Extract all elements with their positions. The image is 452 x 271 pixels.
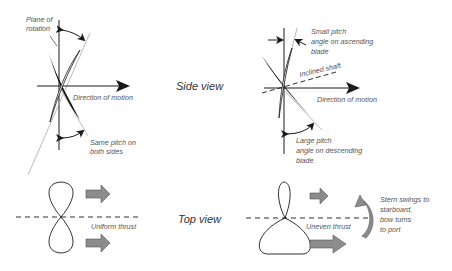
pitch-line-lower bbox=[282, 88, 322, 130]
pitch-angle-arc-bottom bbox=[62, 131, 83, 138]
small-pitch-label-3: blade bbox=[311, 47, 329, 56]
large-pitch-label-2: angle on descending bbox=[296, 146, 362, 155]
same-pitch-label-2: both sides bbox=[90, 147, 123, 156]
turn-label-2: starboard, bbox=[380, 205, 412, 214]
plane-label-leader bbox=[50, 36, 57, 46]
turn-label-3: bow turns bbox=[380, 215, 412, 224]
top-view-label: Top view bbox=[178, 213, 222, 225]
propeller-walk-diagram: Plane of rotation Direction of motion Sa… bbox=[0, 0, 452, 271]
uniform-thrust-label: Uniform thrust bbox=[91, 222, 137, 231]
turning-arrow bbox=[355, 195, 373, 238]
large-pitch-label-1: Large pitch bbox=[296, 136, 332, 145]
large-pitch-angle-arc bbox=[287, 124, 313, 134]
left-side-view: Plane of rotation Direction of motion Sa… bbox=[26, 15, 136, 175]
propeller-loop-lower-large bbox=[259, 218, 310, 254]
thrust-arrow-small bbox=[310, 188, 328, 204]
direction-of-motion-label: Direction of motion bbox=[317, 95, 377, 104]
right-top-view: Uneven thrust Stern swings to starboard,… bbox=[246, 182, 429, 254]
plane-of-rotation-label-2: rotation bbox=[26, 24, 50, 33]
pitch-angle-arc-top bbox=[62, 30, 84, 40]
propeller-loop-lower bbox=[49, 217, 73, 253]
small-pitch-label-1: Small pitch bbox=[311, 27, 346, 36]
thrust-arrow-lower bbox=[86, 234, 110, 252]
same-pitch-label-1: Same pitch on bbox=[90, 138, 136, 147]
left-top-view: Uniform thrust bbox=[16, 182, 140, 253]
direction-of-motion-label: Direction of motion bbox=[73, 93, 133, 102]
small-pitch-arrow-right bbox=[296, 40, 306, 45]
propeller-loop-upper bbox=[49, 182, 73, 217]
propeller-loop-upper-small bbox=[279, 182, 291, 218]
right-side-view: Small pitch angle on ascending blade Inc… bbox=[262, 27, 377, 165]
side-view-label: Side view bbox=[176, 80, 224, 92]
thrust-arrow-upper bbox=[86, 185, 110, 203]
thrust-arrow-large bbox=[310, 235, 346, 253]
turn-label-4: to port bbox=[380, 225, 401, 234]
uneven-thrust-label: Uneven thrust bbox=[306, 222, 352, 231]
large-pitch-label-3: blade bbox=[296, 156, 314, 165]
small-pitch-label-2: angle on ascending bbox=[311, 37, 373, 46]
turn-label-1: Stern swings to bbox=[380, 195, 429, 204]
plane-of-rotation-label-1: Plane of bbox=[26, 15, 53, 24]
